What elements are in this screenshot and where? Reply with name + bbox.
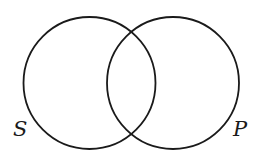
venn-diagram: S P [0, 0, 261, 160]
set-s-label: S [13, 117, 27, 141]
set-p-label: P [232, 117, 248, 141]
set-p-circle [107, 17, 239, 149]
set-s-circle [24, 17, 156, 149]
